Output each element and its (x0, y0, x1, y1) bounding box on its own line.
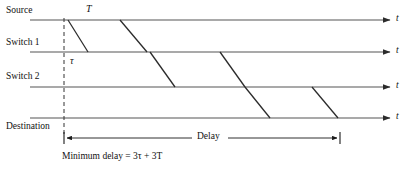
packet-1-hop-source-switch1 (68, 20, 88, 52)
axis-label-switch2: Switch 2 (6, 72, 40, 82)
axis-label-source: Source (6, 6, 32, 16)
packet-2-diagonals (120, 20, 338, 118)
time-axis-label-source: t (396, 14, 399, 24)
time-axis-label-switch2: t (396, 81, 399, 91)
packet-2-hop-source-switch1 (120, 20, 147, 52)
axis-label-destination: Destination (6, 122, 50, 132)
packet-1-diagonals (68, 20, 270, 118)
axis-lines (30, 20, 390, 118)
delay-label: Delay (194, 132, 223, 142)
minimum-delay-caption: Minimum delay = 3τ + 3T (62, 152, 162, 162)
propagation-delay-symbol: τ (70, 56, 74, 66)
packet-2-hop-switch1-switch2 (220, 52, 245, 87)
time-axis-label-destination: t (396, 112, 399, 122)
transmission-time-symbol: T (86, 4, 92, 14)
packet-1-hop-switch1-switch2 (150, 52, 175, 87)
time-axis-label-switch1: t (396, 46, 399, 56)
timing-diagram-figure: Source Switch 1 Switch 2 Destination t t… (0, 0, 410, 171)
packet-1-hop-switch2-destination (245, 87, 270, 118)
axis-label-switch1: Switch 1 (6, 38, 40, 48)
packet-2-hop-switch2-destination (312, 87, 338, 118)
timing-diagram-canvas (0, 0, 410, 171)
